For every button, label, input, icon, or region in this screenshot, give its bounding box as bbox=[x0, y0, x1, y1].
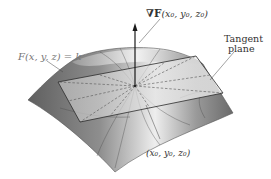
gradient-label: ∇F(x₀, y₀, z₀) bbox=[146, 7, 208, 19]
diagram-canvas: ∇F(x₀, y₀, z₀) F(x, y, z) = k Tangent pl… bbox=[0, 0, 271, 179]
tangent-label-line2: plane bbox=[228, 43, 255, 54]
arrow-head-icon bbox=[133, 23, 138, 31]
point-label: (x₀, y₀, z₀) bbox=[146, 148, 191, 158]
point-marker bbox=[134, 85, 136, 87]
tangent-plane-figure: ∇F(x₀, y₀, z₀) F(x, y, z) = k Tangent pl… bbox=[0, 0, 271, 179]
surface-label: F(x, y, z) = k bbox=[17, 51, 81, 62]
